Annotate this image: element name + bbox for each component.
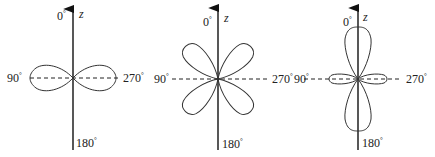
label-180-deg: 180°	[76, 136, 97, 150]
label-270-deg: 270°	[406, 72, 427, 86]
label-0-deg: 0°	[343, 15, 352, 29]
label-0-deg: 0°	[203, 15, 212, 29]
label-270-deg: 270°	[123, 71, 144, 85]
panel-3: 0° z 90° 270° 180°	[294, 8, 427, 150]
label-90-deg: 90°	[154, 72, 169, 86]
label-z-axis: z	[362, 10, 368, 24]
panel-2: 0° z 90° 270° 180°	[154, 8, 293, 151]
label-z-axis: z	[223, 11, 229, 25]
label-180-deg: 180°	[222, 137, 243, 151]
label-270-deg: 270°	[272, 72, 293, 86]
panel-1: 0° z 90° 270° 180°	[7, 7, 144, 150]
label-180-deg: 180°	[362, 136, 383, 150]
polar-plots-figure: 0° z 90° 270° 180° 0° z 90° 270° 180° 0°	[0, 0, 435, 157]
label-0-deg: 0°	[57, 9, 66, 23]
label-90-deg: 90°	[294, 72, 309, 86]
label-z-axis: z	[78, 7, 84, 21]
label-90-deg: 90°	[7, 71, 22, 85]
